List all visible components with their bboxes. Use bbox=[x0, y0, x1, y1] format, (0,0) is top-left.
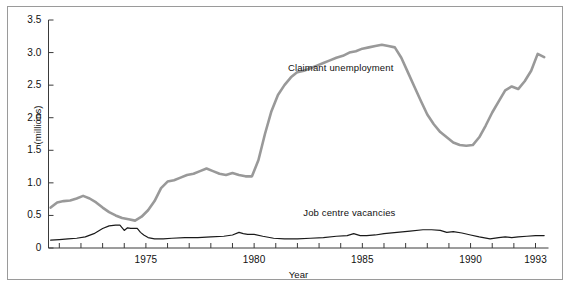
series-line-job-centre-vacancies bbox=[51, 225, 545, 240]
y-axis-tick-label: 2.5 bbox=[16, 79, 42, 90]
series-annotation-label: Claimant unemployment bbox=[288, 62, 394, 73]
y-axis-tick-label: 3.0 bbox=[16, 47, 42, 58]
y-axis-tick-label: 3.5 bbox=[16, 14, 42, 25]
y-axis-tick-label: 0.5 bbox=[16, 209, 42, 220]
chart-plot-area bbox=[0, 0, 571, 287]
y-axis-tick-label: 2.0 bbox=[16, 112, 42, 123]
x-axis-tick-label: 1985 bbox=[342, 254, 382, 265]
series-annotation-label: Job centre vacancies bbox=[303, 207, 395, 218]
x-axis-tick-label: 1993 bbox=[516, 254, 556, 265]
x-axis-title: Year bbox=[269, 269, 329, 280]
y-axis-tick-label: 0 bbox=[16, 242, 42, 253]
y-axis-tick-label: 1.5 bbox=[16, 144, 42, 155]
x-axis-tick-label: 1975 bbox=[126, 254, 166, 265]
x-axis-tick-label: 1990 bbox=[451, 254, 491, 265]
chart-page: (millions) 00.51.01.52.02.53.03.51975198… bbox=[0, 0, 571, 287]
x-axis-tick-label: 1980 bbox=[234, 254, 274, 265]
y-axis-tick-label: 1.0 bbox=[16, 177, 42, 188]
